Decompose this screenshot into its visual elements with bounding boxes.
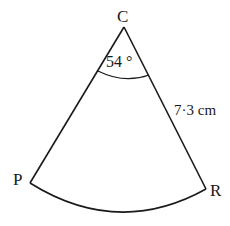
radius-length-label: 7·3 cm (174, 102, 216, 118)
vertex-label-p: P (13, 170, 22, 189)
vertex-label-c: C (117, 7, 128, 26)
sector-diagram: C P R 54 ° 7·3 cm (0, 0, 230, 226)
vertex-label-r: R (210, 181, 222, 200)
radius-cp (30, 27, 124, 183)
arc-pr (30, 183, 206, 212)
angle-label: 54 ° (106, 53, 132, 70)
angle-marker-arc (98, 71, 149, 79)
